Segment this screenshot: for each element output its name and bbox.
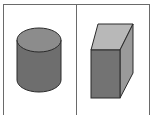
cylinder-shape: [17, 28, 61, 92]
rectangular-prism-shape: [91, 24, 133, 98]
shapes-figure: [0, 0, 155, 115]
